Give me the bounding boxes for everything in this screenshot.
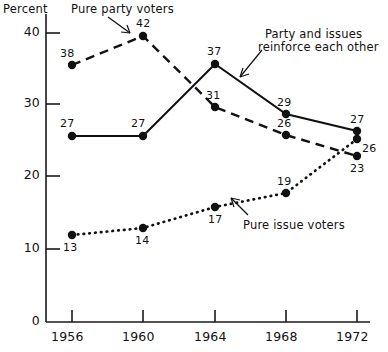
point-label-both-1964: 37	[207, 46, 221, 57]
chart-figure: Percent 40 30 20 10 0 1956 1960 1964 196…	[0, 0, 388, 352]
y-tick-label-40: 40	[6, 26, 40, 39]
point-label-party-1968: 26	[277, 118, 291, 129]
y-tick-label-20: 20	[6, 169, 40, 182]
annotation-pure-party-voters: Pure party voters	[71, 3, 174, 16]
point-label-issue-1968: 19	[277, 176, 291, 187]
y-tick-label-0: 0	[6, 315, 40, 328]
x-tick-label-1964: 1964	[194, 331, 227, 344]
y-axis-title: Percent	[3, 4, 48, 16]
annotation-arrow-pure-party-voters	[108, 17, 130, 33]
y-tick-label-30: 30	[6, 97, 40, 110]
point-label-issue-1964: 17	[208, 214, 222, 225]
point-label-party-1956: 38	[60, 48, 74, 59]
y-axis-ticks	[46, 33, 60, 249]
point-label-party-1972: 23	[350, 163, 364, 174]
annotation-pure-issue-voters: Pure issue voters	[243, 219, 345, 232]
point-label-issue-1956: 13	[63, 242, 77, 253]
annotation-arrow-party-and-issues	[240, 50, 262, 77]
x-tick-label-1960: 1960	[122, 331, 155, 344]
y-tick-label-10: 10	[6, 242, 40, 255]
point-label-both-1960: 27	[131, 118, 145, 129]
point-label-party-1960: 42	[136, 18, 150, 29]
annotation-party-and-issues-line1: Party and issues	[265, 28, 362, 41]
x-tick-label-1968: 1968	[265, 331, 298, 344]
annotation-party-and-issues-line2: reinforce each other	[258, 41, 379, 54]
point-label-both-1972: 27	[350, 114, 364, 125]
point-label-both-1956: 27	[60, 118, 74, 129]
x-axis-ticks	[72, 310, 357, 322]
point-label-issue-1960: 14	[135, 235, 149, 246]
point-label-issue-1972: 26	[362, 143, 376, 154]
point-label-party-1964: 31	[206, 90, 220, 101]
x-tick-label-1972: 1972	[336, 331, 369, 344]
annotation-arrow-pure-issue-voters	[231, 198, 248, 215]
x-tick-label-1956: 1956	[51, 331, 84, 344]
point-label-both-1968: 29	[277, 97, 291, 108]
